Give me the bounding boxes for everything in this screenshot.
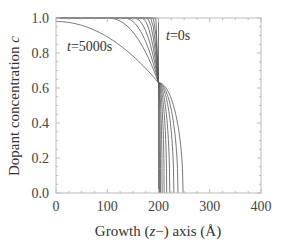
y-axis-title: Dopant concentration c: [6, 36, 22, 176]
y-tick-label: 0.6: [32, 81, 50, 96]
annotation-t0: t=0s: [166, 28, 190, 43]
y-tick-label: 1.0: [32, 11, 50, 26]
dopant-profile-chart: 0100200300400 0.00.20.40.60.81.0 Growth …: [0, 0, 285, 244]
y-tick-labels: 0.00.20.40.60.81.0: [32, 11, 50, 201]
x-axis-title: Growth (z−) axis (Å): [95, 223, 221, 240]
x-tick-labels: 0100200300400: [53, 199, 272, 214]
x-tick-label: 100: [97, 199, 118, 214]
y-tick-label: 0.4: [32, 116, 50, 131]
y-tick-label: 0.0: [32, 186, 50, 201]
x-tick-label: 300: [199, 199, 220, 214]
x-tick-label: 200: [148, 199, 169, 214]
y-tick-label: 0.8: [32, 46, 50, 61]
x-tick-label: 400: [251, 199, 272, 214]
annotation-t5000: t=5000s: [67, 39, 112, 54]
y-tick-label: 0.2: [32, 151, 50, 166]
x-tick-label: 0: [53, 199, 60, 214]
